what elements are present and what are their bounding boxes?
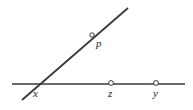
geometry-figure: p x z y — [0, 0, 193, 110]
point-marker-p — [90, 33, 94, 37]
point-label-z: z — [108, 88, 112, 99]
point-label-y: y — [153, 88, 158, 99]
figure-canvas — [0, 0, 193, 110]
point-label-x: x — [33, 88, 38, 99]
point-marker-z — [109, 81, 114, 86]
point-label-p: p — [96, 38, 102, 49]
point-marker-y — [154, 81, 159, 86]
